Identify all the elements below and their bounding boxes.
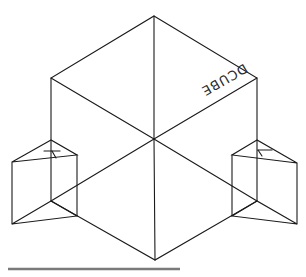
left-prism-bottom: [12, 201, 77, 224]
right-prism-bottom: [232, 201, 297, 224]
left-prism: [12, 140, 77, 224]
cube: DCUBE: [51, 16, 257, 260]
right-prism: [232, 140, 297, 224]
cube-edge-ul: [51, 78, 154, 139]
cube-label: DCUBE: [199, 61, 250, 99]
cube-edge-lr: [154, 139, 257, 201]
isometric-cube-diagram: DCUBE: [0, 0, 306, 277]
cube-edge-bottom: [154, 139, 155, 260]
right-y-mark-stroke: [258, 150, 262, 156]
right-prism-top: [232, 140, 297, 163]
